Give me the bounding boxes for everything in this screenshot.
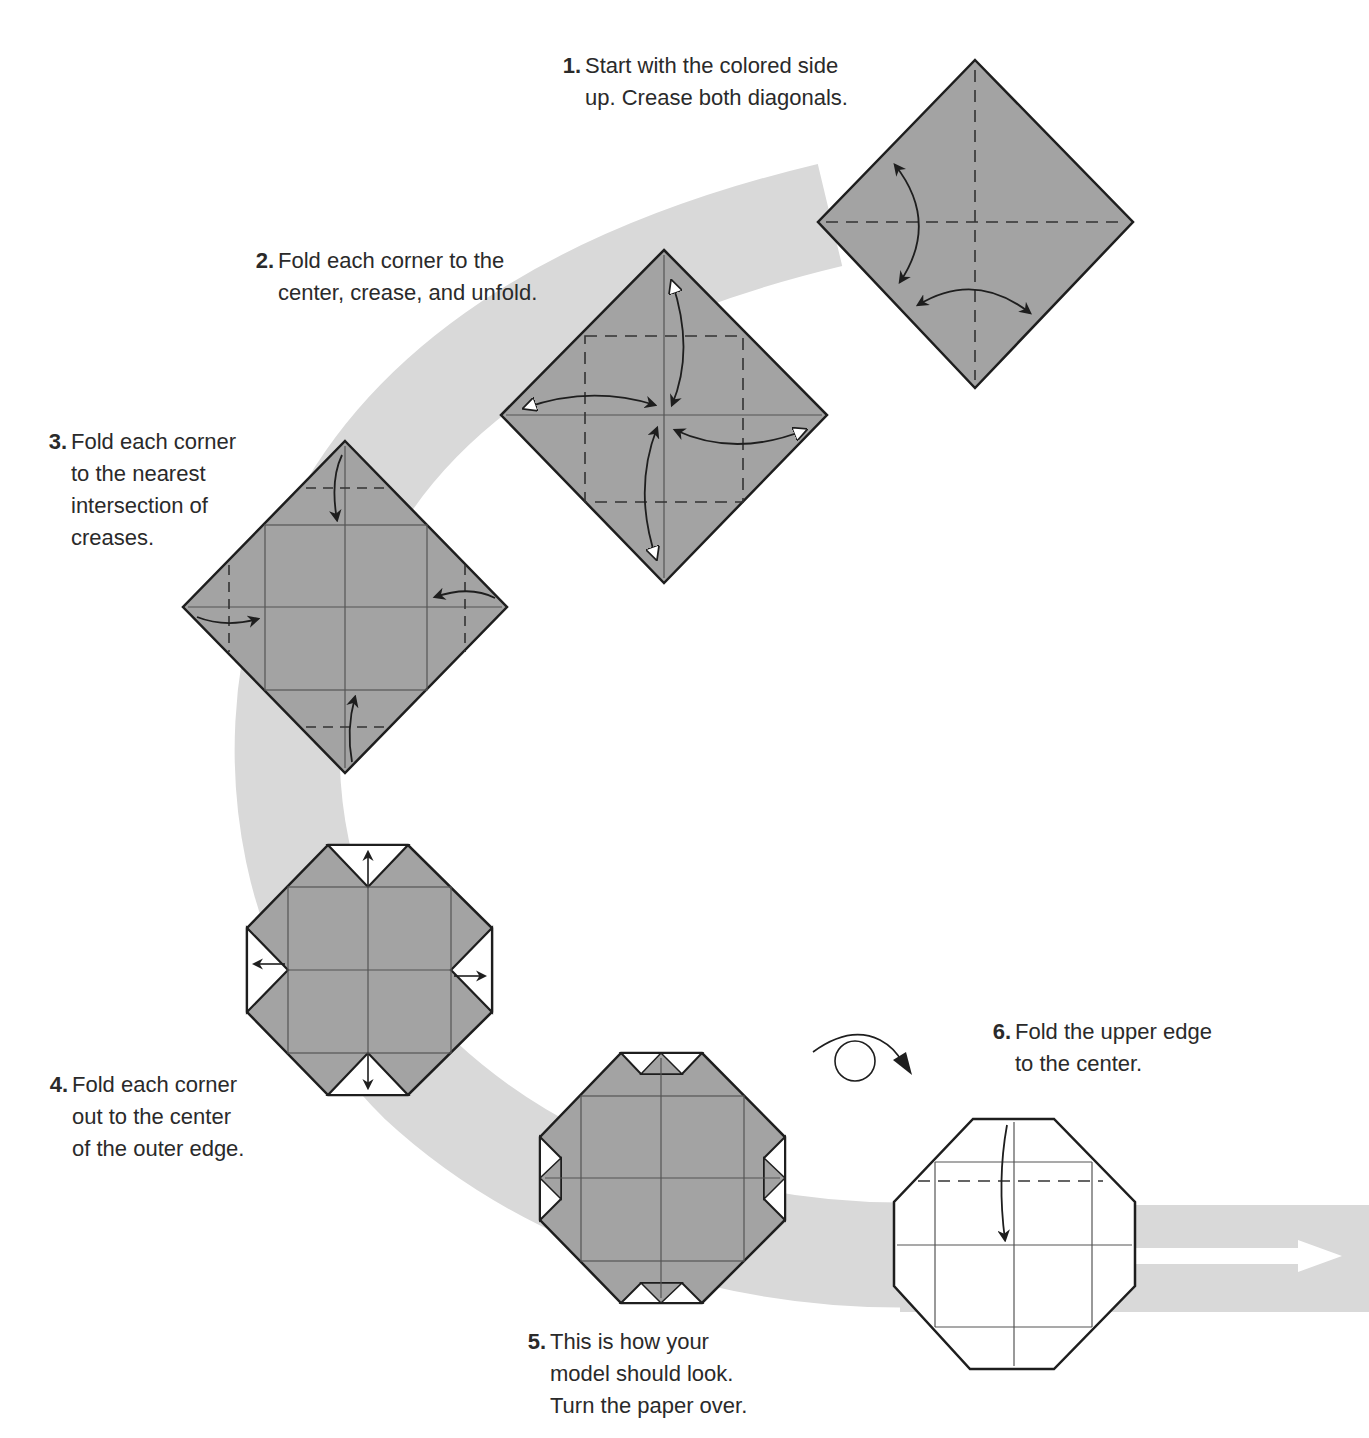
step-1-diagram (818, 60, 1133, 388)
diagram-canvas (0, 0, 1369, 1438)
step-3-number: 3. (37, 426, 67, 458)
step-3-line-3: intersection of (71, 490, 236, 522)
step-3-line-2: to the nearest (71, 458, 236, 490)
turn-over-icon (813, 1035, 912, 1081)
path-band (287, 215, 1369, 1312)
step-6-diagram (894, 1119, 1135, 1369)
step-4-line-3: of the outer edge. (72, 1133, 244, 1165)
step-3-line-4: creases. (71, 522, 236, 554)
step-5-line-2: model should look. (550, 1358, 747, 1390)
step-3-text: 3. Fold each corner to the nearest inter… (71, 426, 236, 554)
step-2-line-1: Fold each corner to the (278, 245, 537, 277)
step-5-number: 5. (516, 1326, 546, 1358)
step-1-text: 1. Start with the colored side up. Creas… (585, 50, 848, 114)
step-4-line-2: out to the center (72, 1101, 244, 1133)
step-2-line-2: center, crease, and unfold. (278, 277, 537, 309)
step-3-line-1: Fold each corner (71, 426, 236, 458)
step-6-text: 6. Fold the upper edge to the center. (1015, 1016, 1212, 1080)
step-5-line-3: Turn the paper over. (550, 1390, 747, 1422)
step-6-number: 6. (981, 1016, 1011, 1048)
step-1-line-1: Start with the colored side (585, 50, 848, 82)
step-1-line-2: up. Crease both diagonals. (585, 82, 848, 114)
step-1-number: 1. (551, 50, 581, 82)
step-6-line-2: to the center. (1015, 1048, 1212, 1080)
step-2-text: 2. Fold each corner to the center, creas… (278, 245, 537, 309)
step-6-line-1: Fold the upper edge (1015, 1016, 1212, 1048)
step-2-number: 2. (244, 245, 274, 277)
step-4-number: 4. (38, 1069, 68, 1101)
step-4-text: 4. Fold each corner out to the center of… (72, 1069, 244, 1165)
step-5-text: 5. This is how your model should look. T… (550, 1326, 747, 1422)
step-4-line-1: Fold each corner (72, 1069, 244, 1101)
step-5-line-1: This is how your (550, 1326, 747, 1358)
